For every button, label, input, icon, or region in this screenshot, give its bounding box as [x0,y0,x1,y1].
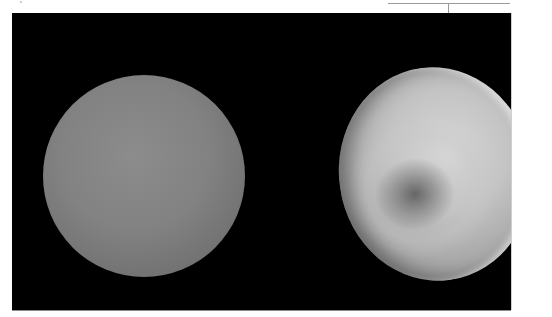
top-rule-line [388,3,510,4]
planet-disk-enhanced [325,55,511,294]
planet-disk-unprocessed [43,75,245,277]
stray-mark [20,1,22,3]
image-panel [12,13,511,310]
top-rule-tick [448,3,449,13]
